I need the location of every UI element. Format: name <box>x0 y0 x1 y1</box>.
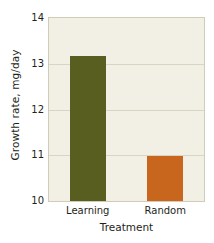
y-tick-label: 12 <box>24 105 44 115</box>
bar-random <box>147 156 183 201</box>
y-tick-label: 14 <box>24 13 44 23</box>
y-axis-tick-labels: 1011121314 <box>24 0 44 243</box>
bar-learning <box>70 56 106 201</box>
x-axis-title: Treatment <box>48 221 205 234</box>
y-tick-label: 11 <box>24 150 44 160</box>
y-axis-title-text: Growth rate, mg/day <box>8 50 20 161</box>
y-tick-label: 10 <box>24 196 44 206</box>
x-tick-label: Random <box>145 205 186 217</box>
plot-area <box>48 17 205 202</box>
x-axis-tick-labels: LearningRandom <box>48 205 205 221</box>
x-tick-label: Learning <box>66 205 109 217</box>
y-tick-label: 13 <box>24 59 44 69</box>
bar-chart: Growth rate, mg/day 1011121314 LearningR… <box>0 0 214 243</box>
